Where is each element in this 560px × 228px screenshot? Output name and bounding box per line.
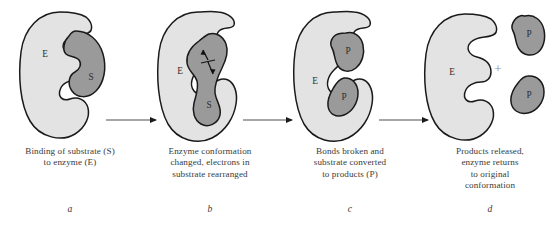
substrate-label-a: S bbox=[88, 72, 93, 82]
panel-label-a: a bbox=[0, 203, 140, 225]
panel-label-d: d bbox=[420, 203, 560, 225]
diagram-canvas: E S E S bbox=[0, 0, 560, 150]
panel-label-b: b bbox=[140, 203, 280, 225]
caption-a: Binding of substrate (S) to enzyme (E) bbox=[0, 146, 140, 198]
enzyme-label-d: E bbox=[449, 67, 455, 77]
caption-c-line-2: substrate converted bbox=[286, 157, 414, 168]
caption-a-line-1: Binding of substrate (S) bbox=[6, 146, 134, 157]
enzyme-label-b: E bbox=[177, 66, 183, 76]
caption-b-line-1: Enzyme conformation bbox=[146, 146, 274, 157]
caption-b-line-3: substrate rearranged bbox=[146, 169, 274, 180]
panel-b-graphic: E S bbox=[158, 12, 237, 142]
panel-d-graphic: E P P + bbox=[425, 14, 545, 140]
substrate-label-b: S bbox=[206, 100, 211, 110]
caption-d-line-2: enzyme returns bbox=[426, 157, 554, 168]
product-label-c-top: P bbox=[345, 46, 350, 56]
enzyme-label-a: E bbox=[42, 49, 48, 59]
caption-c: Bonds broken and substrate converted to … bbox=[280, 146, 420, 198]
panel-label-c: c bbox=[280, 203, 420, 225]
panel-c-graphic: E P P bbox=[294, 12, 373, 142]
enzyme-label-c: E bbox=[312, 76, 318, 86]
enzyme-shape-d bbox=[425, 14, 497, 140]
caption-b: Enzyme conformation changed, electrons i… bbox=[140, 146, 280, 198]
caption-b-line-2: changed, electrons in bbox=[146, 157, 274, 168]
caption-d-line-1: Products released, bbox=[426, 146, 554, 157]
caption-d-line-3: to original bbox=[426, 169, 554, 180]
panel-a-graphic: E S bbox=[20, 12, 105, 138]
product-label-d-bottom: P bbox=[526, 90, 531, 100]
panel-label-row: a b c d bbox=[0, 203, 560, 225]
caption-row: Binding of substrate (S) to enzyme (E) E… bbox=[0, 146, 560, 198]
caption-d-line-4: conformation bbox=[426, 180, 554, 191]
product-label-c-bottom: P bbox=[341, 92, 346, 102]
enzyme-substrate-figure: E S E S bbox=[0, 0, 560, 228]
caption-c-line-1: Bonds broken and bbox=[286, 146, 414, 157]
caption-c-line-3: to products (P) bbox=[286, 169, 414, 180]
product-label-d-top: P bbox=[526, 29, 531, 39]
plus-icon: + bbox=[494, 61, 501, 76]
caption-d: Products released, enzyme returns to ori… bbox=[420, 146, 560, 198]
caption-a-line-2: to enzyme (E) bbox=[6, 157, 134, 168]
enzyme-shape-c bbox=[294, 12, 373, 142]
